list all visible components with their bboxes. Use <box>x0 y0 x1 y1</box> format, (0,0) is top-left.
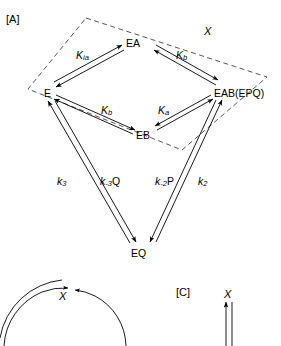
panel-c-tag: [C] <box>176 287 190 298</box>
label-k-ia-base: K <box>76 49 83 61</box>
label-k-minus3q: k-3Q <box>100 176 120 188</box>
edge-eq-eab <box>150 100 222 242</box>
edge-e-ea <box>54 45 124 87</box>
label-k-minus2p-sub: -2 <box>160 179 167 188</box>
node-eb: EB <box>136 130 150 141</box>
label-k2-sub: 2 <box>203 179 207 188</box>
panel-a-tag: [A] <box>6 14 19 25</box>
label-k-a-bottom-sub: a <box>165 108 169 117</box>
panel-c-arrows <box>226 302 232 346</box>
edge-e-eb <box>54 95 135 134</box>
label-k-b-bottom: Kb <box>101 105 112 117</box>
edge-e-eq <box>48 101 136 243</box>
label-k2: k2 <box>198 176 207 188</box>
label-k-b-top-sub: b <box>183 53 187 62</box>
label-k-b-top-base: K <box>176 49 183 61</box>
label-k-b-bottom-base: K <box>101 104 108 116</box>
label-k-ia-sub: ia <box>83 53 89 62</box>
label-k-minus2p: k-2P <box>155 176 174 188</box>
label-k-b-bottom-sub: b <box>108 108 112 117</box>
boundary-label-x: X <box>204 26 211 37</box>
node-e: E <box>44 88 51 99</box>
node-eab: EAB(EPQ) <box>214 88 264 99</box>
label-k-ia: Kia <box>76 50 89 62</box>
label-k3: k3 <box>57 176 66 188</box>
panel-c-label-x: X <box>224 289 231 300</box>
label-k-a-bottom-base: K <box>158 104 165 116</box>
label-k-minus3q-suffix: Q <box>112 175 120 187</box>
label-k-b-top: Kb <box>176 50 187 62</box>
label-k-minus2p-suffix: P <box>167 175 174 187</box>
diagram-svg <box>0 0 281 346</box>
label-k-a-bottom: Ka <box>158 105 169 117</box>
label-k3-sub: 3 <box>62 179 66 188</box>
cycle-label-x: X <box>59 291 66 302</box>
figure-canvas: [A] X EA E EB EAB(EPQ) EQ Kia Kb Kb Ka k… <box>0 0 281 346</box>
node-ea: EA <box>126 38 140 49</box>
label-k-minus3q-sub: -3 <box>105 179 112 188</box>
node-eq: EQ <box>131 248 146 259</box>
